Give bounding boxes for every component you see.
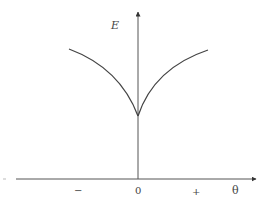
curve-right-branch bbox=[138, 50, 208, 116]
x-tick-negative: − bbox=[74, 185, 82, 196]
x-axis-label: θ bbox=[232, 184, 239, 197]
x-tick-zero: 0 bbox=[135, 185, 141, 196]
curve-left-branch bbox=[69, 49, 138, 116]
y-axis-label: E bbox=[110, 19, 119, 32]
x-tick-positive: + bbox=[192, 186, 200, 197]
energy-diagram: E θ − 0 + bbox=[0, 0, 266, 202]
